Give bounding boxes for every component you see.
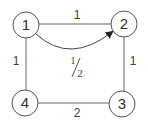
svg-text:1: 1 <box>71 55 76 66</box>
node-4: 4 <box>12 90 38 116</box>
graph-diagram: 1 2 3 4 1 1 2 1 1 2 <box>0 0 148 129</box>
node-2: 2 <box>111 11 137 37</box>
svg-text:1: 1 <box>22 16 30 33</box>
edge-label-3-4: 2 <box>74 106 81 120</box>
svg-text:2: 2 <box>77 67 83 79</box>
edge-label-curved-half: 1 2 <box>71 55 83 79</box>
edge-label-1-2: 1 <box>74 8 81 22</box>
edge-label-4-1: 1 <box>13 54 20 68</box>
svg-text:2: 2 <box>120 15 128 32</box>
node-3: 3 <box>109 91 135 117</box>
edge-label-2-3: 1 <box>130 54 137 68</box>
node-1: 1 <box>13 12 39 38</box>
curved-edge-1-2 <box>36 32 112 49</box>
svg-text:4: 4 <box>21 94 29 111</box>
svg-text:3: 3 <box>118 95 126 112</box>
